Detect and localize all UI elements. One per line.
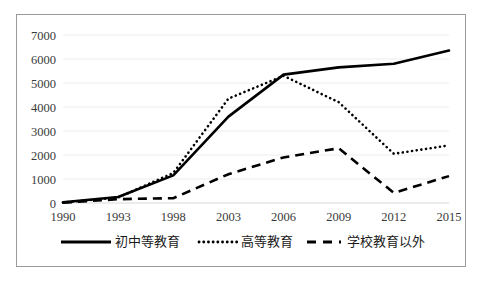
x-axis-tick-labels: 19901993199820032006200920122015 xyxy=(51,210,462,224)
chart-legend: 初中等教育高等教育学校教育以外 xyxy=(61,234,425,249)
x-tick-label: 2003 xyxy=(216,210,241,224)
x-tick-label: 2009 xyxy=(326,210,351,224)
x-tick-label: 2015 xyxy=(437,210,462,224)
data-series-group xyxy=(63,51,449,203)
x-tick-label: 1993 xyxy=(106,210,131,224)
y-tick-label: 4000 xyxy=(31,101,56,115)
legend-label: 学校教育以外 xyxy=(347,234,425,249)
y-tick-label: 1000 xyxy=(31,173,56,187)
chart-frame: 01000200030004000500060007000 1990199319… xyxy=(16,14,466,267)
x-tick-label: 1998 xyxy=(161,210,186,224)
y-tick-label: 3000 xyxy=(31,125,56,139)
series-line-solid xyxy=(63,51,449,203)
y-axis-tick-labels: 01000200030004000500060007000 xyxy=(31,29,56,211)
y-tick-label: 6000 xyxy=(31,53,56,67)
x-tick-label: 2012 xyxy=(381,210,406,224)
x-tick-label: 2006 xyxy=(271,210,296,224)
y-tick-label: 0 xyxy=(50,197,56,211)
y-tick-label: 5000 xyxy=(31,77,56,91)
gridlines-group xyxy=(63,35,449,203)
legend-label: 初中等教育 xyxy=(115,234,180,249)
legend-label: 高等教育 xyxy=(241,234,293,249)
y-tick-label: 2000 xyxy=(31,149,56,163)
line-chart: 01000200030004000500060007000 1990199319… xyxy=(17,15,465,266)
x-tick-label: 1990 xyxy=(51,210,76,224)
y-tick-label: 7000 xyxy=(31,29,56,43)
